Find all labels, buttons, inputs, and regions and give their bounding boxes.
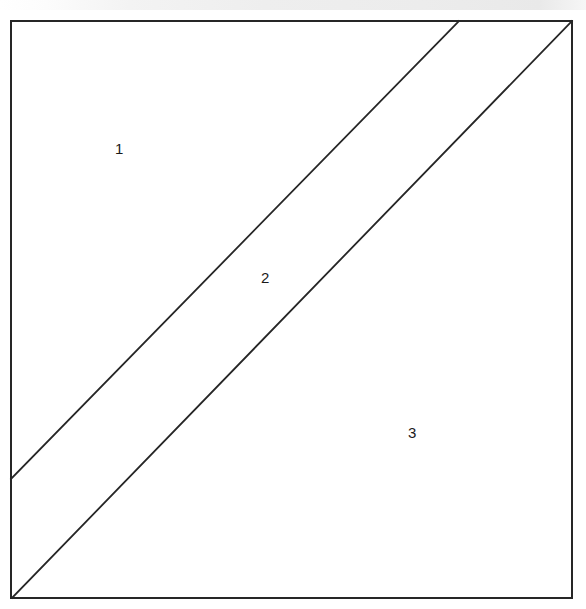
upper-diagonal-line <box>11 21 459 479</box>
diagram-svg <box>0 0 586 609</box>
region-label-3: 3 <box>408 425 416 440</box>
lower-diagonal-line <box>12 21 572 598</box>
region-label-2: 2 <box>261 270 269 285</box>
figure-canvas: 1 2 3 <box>0 0 586 609</box>
region-label-1: 1 <box>115 141 123 156</box>
